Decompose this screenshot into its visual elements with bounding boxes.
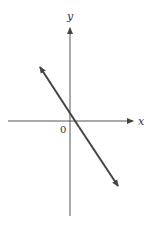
y-axis-label: y [66, 10, 74, 23]
x-axis-label: x [138, 115, 145, 128]
origin-label: 0 [60, 124, 66, 135]
data-line-lower [79, 127, 118, 186]
chart: y x 0 [0, 0, 153, 231]
data-line [40, 67, 79, 127]
